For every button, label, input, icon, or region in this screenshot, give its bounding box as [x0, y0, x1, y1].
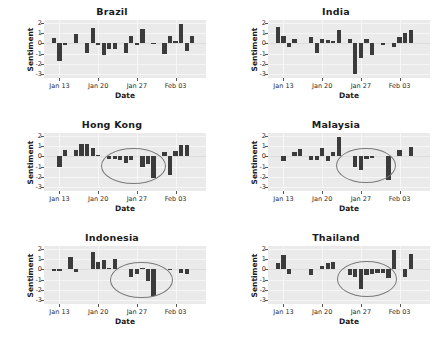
bar — [331, 152, 335, 156]
bar — [91, 28, 95, 43]
x-tick-label: Jan 20 — [312, 82, 332, 90]
gridline-horizontal — [44, 249, 206, 250]
bar — [353, 156, 357, 166]
bar — [52, 269, 56, 271]
x-tick-mark — [59, 191, 60, 194]
x-tick-label: Jan 13 — [273, 195, 293, 203]
panel-title: Indonesia — [0, 232, 224, 243]
bar — [68, 257, 72, 269]
bar — [359, 43, 363, 57]
gridline-vertical — [400, 20, 401, 78]
y-tick-group: 210-1-2-3 — [224, 246, 268, 304]
plot-area — [44, 246, 206, 304]
bar — [386, 156, 390, 179]
bar — [403, 269, 407, 276]
bar — [292, 39, 296, 43]
bar — [381, 43, 385, 45]
bar — [129, 156, 133, 160]
gridline-horizontal — [44, 300, 206, 301]
x-tick-label: Jan 27 — [351, 308, 371, 316]
bar — [102, 43, 106, 54]
bar — [409, 147, 413, 156]
gridline-horizontal — [268, 290, 430, 291]
bar — [129, 36, 133, 43]
bar — [162, 43, 166, 53]
x-tick-label: Jan 27 — [127, 195, 147, 203]
gridline-vertical — [98, 246, 99, 304]
bar — [102, 260, 106, 269]
bar — [79, 144, 83, 156]
x-tick-label: Feb 03 — [165, 82, 187, 90]
bar — [151, 43, 155, 44]
bar — [124, 43, 128, 52]
gridline-horizontal — [268, 23, 430, 24]
bar — [359, 269, 363, 288]
bar — [281, 255, 285, 269]
panel-title: Hong Kong — [0, 119, 224, 130]
bar — [135, 43, 139, 44]
bar — [185, 145, 189, 156]
bar — [315, 43, 319, 52]
gridline-horizontal — [44, 280, 206, 281]
gridline-horizontal — [44, 74, 206, 75]
bar — [173, 41, 177, 43]
gridline-horizontal — [44, 136, 206, 137]
x-tick-label: Feb 03 — [389, 82, 411, 90]
bar — [140, 29, 144, 43]
bar — [57, 43, 61, 60]
gridline-horizontal — [44, 167, 206, 168]
plot-area — [268, 133, 430, 191]
x-tick-group: Jan 13Jan 20Jan 27Feb 03 — [44, 78, 206, 92]
subplot-panel: IndiaSentiment210-1-2-3Jan 13Jan 20Jan 2… — [224, 0, 448, 113]
bar — [190, 36, 194, 43]
x-tick-label: Jan 13 — [49, 308, 69, 316]
bar — [107, 156, 111, 159]
x-tick-label: Jan 20 — [312, 195, 332, 203]
x-tick-mark — [322, 191, 323, 194]
bar — [57, 269, 61, 271]
x-tick-mark — [98, 78, 99, 81]
bar — [107, 43, 111, 49]
gridline-horizontal — [268, 64, 430, 65]
gridline-vertical — [98, 133, 99, 191]
x-tick-mark — [283, 191, 284, 194]
bar — [409, 30, 413, 43]
bar — [113, 156, 117, 159]
x-tick-label: Jan 27 — [351, 195, 371, 203]
bar — [185, 43, 189, 50]
gridline-horizontal — [268, 300, 430, 301]
x-axis-label: Date — [268, 91, 430, 100]
bar — [370, 43, 374, 54]
gridline-horizontal — [268, 280, 430, 281]
x-tick-mark — [283, 304, 284, 307]
x-tick-mark — [322, 78, 323, 81]
x-tick-label: Jan 20 — [88, 82, 108, 90]
bar — [52, 38, 56, 43]
y-tick-group: 210-1-2-3 — [224, 20, 268, 78]
subplot-panel: ThailandSentiment210-1-2-3Jan 13Jan 20Ja… — [224, 226, 448, 340]
bar — [173, 151, 177, 156]
x-tick-label: Jan 20 — [312, 308, 332, 316]
plot-area — [44, 20, 206, 78]
gridline-horizontal — [268, 187, 430, 188]
x-axis-label: Date — [44, 91, 206, 100]
gridline-horizontal — [268, 54, 430, 55]
zero-line — [268, 43, 430, 44]
bar — [348, 269, 352, 275]
x-tick-mark — [400, 191, 401, 194]
bar — [397, 37, 401, 43]
x-axis-label: Date — [268, 204, 430, 213]
bar — [91, 148, 95, 156]
subplot-panel: MalaysiaSentiment210-1-2-3Jan 13Jan 20Ja… — [224, 113, 448, 226]
gridline-horizontal — [268, 177, 430, 178]
gridline-vertical — [400, 133, 401, 191]
panel-title: Brazil — [0, 6, 224, 17]
x-tick-mark — [361, 78, 362, 81]
bar — [337, 137, 341, 156]
gridline-horizontal — [44, 187, 206, 188]
panel-title: Thailand — [224, 232, 448, 243]
y-tick-group: 210-1-2-3 — [0, 133, 44, 191]
gridline-vertical — [137, 133, 138, 191]
bar — [276, 263, 280, 269]
gridline-vertical — [176, 20, 177, 78]
